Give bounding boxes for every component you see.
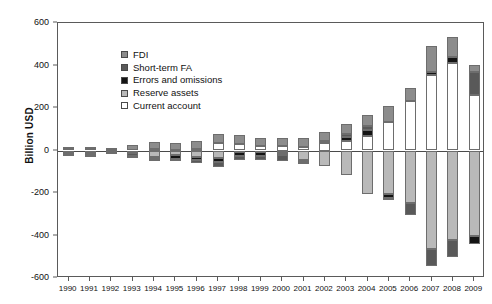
x-tick-label: 1994 <box>144 284 162 293</box>
bar-segment[interactable] <box>447 63 458 151</box>
bar-group[interactable] <box>234 23 245 276</box>
bar-segment[interactable] <box>405 101 416 150</box>
legend-item[interactable]: Short-term FA <box>121 62 222 74</box>
bar-segment[interactable] <box>213 134 224 143</box>
bar-segment[interactable] <box>255 156 266 160</box>
bar-group[interactable] <box>277 23 288 276</box>
bar-segment[interactable] <box>341 134 352 137</box>
bar-segment[interactable] <box>383 122 394 150</box>
bar-group[interactable] <box>426 23 437 276</box>
bar-segment[interactable] <box>447 57 458 63</box>
bar-segment[interactable] <box>469 65 480 72</box>
bar-segment[interactable] <box>255 138 266 146</box>
x-tick-label: 2003 <box>336 284 354 293</box>
bar-segment[interactable] <box>63 147 74 149</box>
bar-segment[interactable] <box>405 203 416 215</box>
bar-segment[interactable] <box>341 141 352 151</box>
bar-segment[interactable] <box>298 162 309 165</box>
x-tick-mark <box>217 277 218 281</box>
y-tick-label: -600 <box>31 273 49 282</box>
bar-segment[interactable] <box>341 151 352 176</box>
legend-item[interactable]: Reserve assets <box>121 87 222 99</box>
bar-segment[interactable] <box>191 141 202 149</box>
bar-segment[interactable] <box>362 136 373 151</box>
bar-segment[interactable] <box>362 115 373 127</box>
bar-segment[interactable] <box>213 143 224 151</box>
bar-segment[interactable] <box>170 159 181 161</box>
bar-segment[interactable] <box>383 151 394 195</box>
bar-segment[interactable] <box>106 152 117 154</box>
bar-segment[interactable] <box>149 159 160 161</box>
bar-group[interactable] <box>341 23 352 276</box>
bar-segment[interactable] <box>341 124 352 134</box>
bar-segment[interactable] <box>85 155 96 157</box>
y-axis: Billion USD 6004002000-200-400-600 <box>0 0 57 304</box>
bar-segment[interactable] <box>447 37 458 57</box>
legend-item[interactable]: FDI <box>121 49 222 61</box>
bar-segment[interactable] <box>469 95 480 150</box>
bar-segment[interactable] <box>106 148 117 150</box>
bar-segment[interactable] <box>447 240 458 257</box>
bar-segment[interactable] <box>149 142 160 149</box>
bar-segment[interactable] <box>426 72 437 75</box>
legend-swatch-icon <box>121 64 128 71</box>
bar-group[interactable] <box>383 23 394 276</box>
bar-group[interactable] <box>85 23 96 276</box>
legend-label: FDI <box>133 50 148 60</box>
legend-item[interactable]: Errors and omissions <box>121 75 222 87</box>
bar-segment[interactable] <box>405 88 416 101</box>
bar-segment[interactable] <box>63 154 74 156</box>
bar-segment[interactable] <box>469 72 480 95</box>
bar-segment[interactable] <box>319 151 330 167</box>
x-tick-label: 1995 <box>166 284 184 293</box>
zero-baseline <box>58 151 483 152</box>
y-axis-title: Billion USD <box>24 76 35 196</box>
bar-segment[interactable] <box>234 156 245 161</box>
x-tick-label: 1999 <box>251 284 269 293</box>
bar-segment[interactable] <box>362 126 373 130</box>
bar-segment[interactable] <box>170 143 181 150</box>
bar-segment[interactable] <box>362 151 373 195</box>
x-tick-label: 1991 <box>80 284 98 293</box>
bar-segment[interactable] <box>447 151 458 240</box>
bar-segment[interactable] <box>469 151 480 236</box>
bar-segment[interactable] <box>213 162 224 167</box>
bar-group[interactable] <box>362 23 373 276</box>
bar-segment[interactable] <box>319 132 330 142</box>
bar-group[interactable] <box>319 23 330 276</box>
bar-segment[interactable] <box>426 75 437 150</box>
bar-group[interactable] <box>469 23 480 276</box>
bar-group[interactable] <box>255 23 266 276</box>
bar-segment[interactable] <box>213 151 224 158</box>
bar-segment[interactable] <box>383 106 394 123</box>
bar-segment[interactable] <box>426 151 437 249</box>
bar-segment[interactable] <box>298 138 309 147</box>
bar-segment[interactable] <box>405 151 416 203</box>
legend-label: Reserve assets <box>133 88 198 98</box>
bar-segment[interactable] <box>362 130 373 136</box>
bar-group[interactable] <box>63 23 74 276</box>
bar-segment[interactable] <box>341 137 352 141</box>
bar-segment[interactable] <box>277 155 288 161</box>
bar-segment[interactable] <box>191 160 202 162</box>
bar-segment[interactable] <box>85 147 96 149</box>
bar-group[interactable] <box>447 23 458 276</box>
bar-segment[interactable] <box>234 144 245 151</box>
bar-group[interactable] <box>405 23 416 276</box>
bar-segment[interactable] <box>426 249 437 266</box>
bar-segment[interactable] <box>298 151 309 161</box>
bar-segment[interactable] <box>234 135 245 144</box>
legend-swatch-icon <box>121 102 128 109</box>
bar-segment[interactable] <box>383 198 394 200</box>
bar-segment[interactable] <box>319 141 330 143</box>
legend-swatch-icon <box>121 77 128 84</box>
bar-segment[interactable] <box>277 138 288 146</box>
bar-group[interactable] <box>106 23 117 276</box>
bar-segment[interactable] <box>319 143 330 150</box>
bar-segment[interactable] <box>127 156 138 159</box>
bar-group[interactable] <box>298 23 309 276</box>
bar-segment[interactable] <box>191 151 202 158</box>
bar-segment[interactable] <box>469 236 480 245</box>
legend-item[interactable]: Current account <box>121 100 222 112</box>
bar-segment[interactable] <box>426 46 437 72</box>
